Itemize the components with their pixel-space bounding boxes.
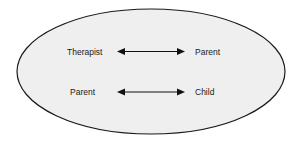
container-ellipse	[17, 9, 285, 134]
relationship-2-right-label: Child	[195, 87, 215, 97]
relationship-1-left-label: Therapist	[67, 47, 103, 57]
relationship-diagram: Therapist Parent Parent Child	[0, 0, 300, 141]
relationship-2-left-label: Parent	[70, 87, 96, 97]
relationship-1-right-label: Parent	[195, 47, 221, 57]
